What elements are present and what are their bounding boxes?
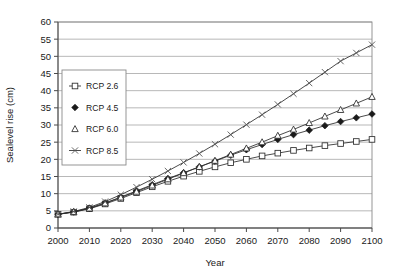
series-2-marker-20 xyxy=(369,93,375,99)
x-tick-label-2100: 2100 xyxy=(361,235,382,246)
legend: RCP 2.6RCP 4.5RCP 6.0RCP 8.5 xyxy=(62,70,126,165)
legend-label-0: RCP 2.6 xyxy=(86,81,119,91)
x-axis-ticks: 2000201020202030204020502060207020802090… xyxy=(47,228,382,246)
series-0-marker-20 xyxy=(369,137,375,143)
series-2-marker-16 xyxy=(306,120,312,126)
y-tick-label-60: 60 xyxy=(40,16,51,27)
y-tick-label-50: 50 xyxy=(40,51,51,62)
series-0-marker-19 xyxy=(354,139,360,145)
y-tick-label-0: 0 xyxy=(46,222,51,233)
y-tick-label-20: 20 xyxy=(40,154,51,165)
x-tick-label-2010: 2010 xyxy=(79,235,100,246)
sealevel-rise-chart: 0510152025303540455055602000201020202030… xyxy=(0,0,401,275)
y-axis-ticks: 051015202530354045505560 xyxy=(40,16,58,233)
y-tick-label-5: 5 xyxy=(46,205,51,216)
x-tick-label-2020: 2020 xyxy=(110,235,131,246)
legend-label-3: RCP 8.5 xyxy=(86,146,119,156)
series-2-marker-14 xyxy=(275,132,281,138)
x-tick-label-2060: 2060 xyxy=(236,235,257,246)
series-0-marker-15 xyxy=(291,148,297,154)
series-2-marker-15 xyxy=(290,126,296,132)
series-2-marker-12 xyxy=(243,145,249,151)
y-tick-label-30: 30 xyxy=(40,119,51,130)
series-1-marker-19 xyxy=(353,114,360,121)
chart-canvas: 0510152025303540455055602000201020202030… xyxy=(0,0,401,275)
y-tick-label-10: 10 xyxy=(40,188,51,199)
x-axis-title: Year xyxy=(205,257,224,268)
series-0-marker-13 xyxy=(259,153,265,159)
y-tick-label-25: 25 xyxy=(40,137,51,148)
y-tick-label-15: 15 xyxy=(40,171,51,182)
y-tick-label-55: 55 xyxy=(40,34,51,45)
series-2-marker-13 xyxy=(259,139,265,145)
series-0-marker-12 xyxy=(244,157,250,163)
series-0-marker-17 xyxy=(322,143,328,149)
series-0-marker-11 xyxy=(228,160,234,166)
series-0-marker-18 xyxy=(338,141,344,147)
x-tick-label-2000: 2000 xyxy=(47,235,68,246)
legend-label-2: RCP 6.0 xyxy=(86,124,119,134)
y-tick-label-35: 35 xyxy=(40,102,51,113)
series-1-marker-18 xyxy=(337,118,344,125)
x-tick-label-2050: 2050 xyxy=(204,235,225,246)
legend-label-1: RCP 4.5 xyxy=(86,103,119,113)
series-0-marker-16 xyxy=(306,145,312,151)
legend-marker-open-square-0 xyxy=(72,83,78,89)
x-tick-label-2090: 2090 xyxy=(330,235,351,246)
series-1-marker-20 xyxy=(369,111,376,118)
series-2-marker-19 xyxy=(353,100,359,106)
series-2-marker-18 xyxy=(337,106,343,112)
series-1-marker-17 xyxy=(322,122,329,129)
y-tick-label-45: 45 xyxy=(40,68,51,79)
series-0-marker-10 xyxy=(212,164,218,170)
x-tick-label-2070: 2070 xyxy=(267,235,288,246)
y-axis-title: Sealevel rise (cm) xyxy=(4,87,15,163)
x-tick-label-2030: 2030 xyxy=(142,235,163,246)
series-2-marker-17 xyxy=(322,113,328,119)
x-tick-label-2080: 2080 xyxy=(299,235,320,246)
series-0-marker-14 xyxy=(275,150,281,156)
y-tick-label-40: 40 xyxy=(40,85,51,96)
x-tick-label-2040: 2040 xyxy=(173,235,194,246)
series-1-marker-16 xyxy=(306,127,313,134)
